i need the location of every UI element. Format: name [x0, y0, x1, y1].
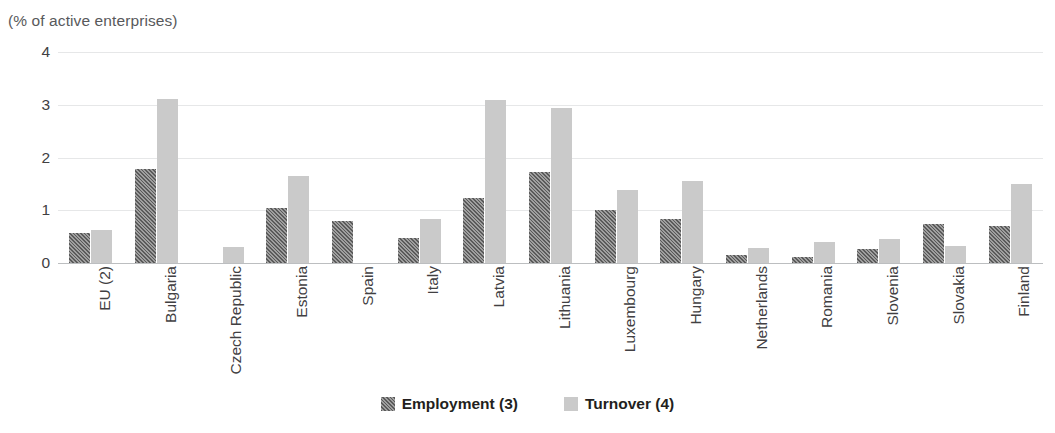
x-category-label: Czech Republic: [228, 266, 244, 375]
bars-layer: [58, 52, 1043, 263]
bar-turnover: [91, 230, 112, 263]
bar-group: [58, 52, 124, 263]
bar-turnover: [945, 246, 966, 263]
bar-turnover: [485, 100, 506, 263]
bar-employment: [595, 210, 616, 263]
bar-turnover: [814, 242, 835, 263]
y-tick-label: 3: [16, 96, 50, 114]
y-tick-label: 2: [16, 149, 50, 167]
bar-group: [912, 52, 978, 263]
y-tick-label: 1: [16, 201, 50, 219]
legend-label: Employment (3): [402, 395, 518, 413]
bar-employment: [792, 257, 813, 263]
x-category-label: Slovakia: [951, 266, 967, 325]
x-category-label: Estonia: [294, 266, 310, 318]
bar-turnover: [420, 219, 441, 263]
bar-employment: [923, 224, 944, 263]
bar-employment: [989, 226, 1010, 263]
bar-turnover: [617, 190, 638, 263]
bar-group: [255, 52, 321, 263]
y-axis-tick-labels: 01234: [8, 52, 50, 263]
x-category-label: Slovenia: [885, 266, 901, 325]
axis-baseline: [58, 263, 1043, 264]
x-category-label: EU (2): [97, 266, 113, 311]
bar-group: [452, 52, 518, 263]
y-tick-label: 0: [16, 254, 50, 272]
bar-employment: [398, 238, 419, 263]
bar-turnover: [1011, 184, 1032, 263]
x-category-label: Bulgaria: [163, 266, 179, 323]
x-category-label: Hungary: [688, 266, 704, 325]
bar-employment: [463, 198, 484, 263]
legend-item[interactable]: Turnover (4): [564, 395, 674, 413]
chart-container: (% of active enterprises) 01234 EU (2)Bu…: [0, 0, 1055, 433]
bar-turnover: [288, 176, 309, 263]
bar-group: [846, 52, 912, 263]
x-category-label: Romania: [819, 266, 835, 328]
bar-turnover: [682, 181, 703, 263]
legend-item[interactable]: Employment (3): [381, 395, 518, 413]
chart-legend: Employment (3)Turnover (4): [0, 395, 1055, 413]
x-category-label: Spain: [360, 266, 376, 306]
hatched-dark-gray-swatch: [381, 397, 395, 411]
bar-group: [124, 52, 190, 263]
y-tick-label: 4: [16, 43, 50, 61]
bar-group: [780, 52, 846, 263]
bar-group: [518, 52, 584, 263]
bar-group: [583, 52, 649, 263]
bar-employment: [135, 169, 156, 263]
x-axis-category-labels: EU (2)BulgariaCzech RepublicEstoniaSpain…: [58, 266, 1043, 378]
bar-group: [386, 52, 452, 263]
x-category-label: Latvia: [491, 266, 507, 307]
bar-group: [321, 52, 387, 263]
bar-group: [189, 52, 255, 263]
bar-turnover: [748, 248, 769, 263]
bar-employment: [332, 221, 353, 263]
bar-employment: [69, 233, 90, 263]
bar-group: [977, 52, 1043, 263]
x-category-label: Finland: [1016, 266, 1032, 317]
bar-employment: [266, 208, 287, 263]
bar-turnover: [551, 108, 572, 263]
chart-subtitle: (% of active enterprises): [8, 12, 178, 30]
x-category-label: Netherlands: [754, 266, 770, 350]
bar-turnover: [157, 99, 178, 263]
legend-label: Turnover (4): [585, 395, 674, 413]
bar-turnover: [223, 247, 244, 263]
bar-group: [649, 52, 715, 263]
solid-light-gray-swatch: [564, 397, 578, 411]
bar-employment: [529, 172, 550, 263]
bar-employment: [660, 219, 681, 263]
bar-group: [715, 52, 781, 263]
x-category-label: Lithuania: [557, 266, 573, 329]
bar-employment: [857, 249, 878, 263]
bar-employment: [726, 255, 747, 263]
x-category-label: Luxembourg: [622, 266, 638, 352]
x-category-label: Italy: [425, 266, 441, 294]
bar-turnover: [879, 239, 900, 263]
